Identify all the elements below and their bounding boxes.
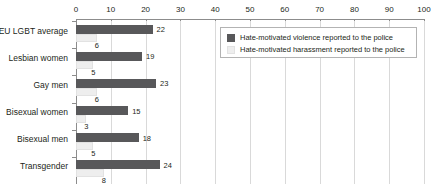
bar-violence [76,106,128,115]
category-tick [72,157,76,158]
category-tick [72,75,76,76]
bar-violence [76,52,142,61]
x-tick-label: 80 [350,5,359,15]
legend-item-violence: Hate-motivated violence reported to the … [227,33,393,42]
bar-violence [76,79,156,88]
x-tick-label: 90 [385,5,394,15]
bar-value-harassment: 8 [102,176,106,185]
x-tick-label: 100 [417,5,430,15]
chart-legend: Hate-motivated violence reported to the … [220,27,417,58]
harassment-swatch-icon [227,46,235,54]
x-tick-label: 20 [141,5,150,15]
bar-value-violence: 19 [146,52,154,61]
bar-value-violence: 18 [143,134,151,143]
legend-label-violence: Hate-motivated violence reported to the … [240,33,393,42]
x-tick-label: 70 [315,5,324,15]
category-row: Gay men236 [76,75,424,102]
bar-value-violence: 15 [132,107,140,116]
bar-value-violence: 24 [164,161,172,170]
x-tick-label: 50 [246,5,255,15]
category-row: Transgender248 [76,157,424,184]
category-tick [72,48,76,49]
bar-violence [76,25,153,34]
x-tick-label: 0 [74,5,78,15]
category-label: Bisexual women [6,107,68,117]
legend-item-harassment: Hate-motivated harassment reported to th… [227,45,405,54]
bar-violence [76,160,160,169]
category-tick [72,103,76,104]
x-tick-label: 30 [176,5,185,15]
category-row: Bisexual men185 [76,130,424,157]
category-row: Bisexual women153 [76,103,424,130]
category-tick [72,130,76,131]
bar-harassment [76,34,97,42]
category-label: Gay men [34,80,69,90]
category-label: Bisexual men [17,134,68,144]
x-tick-label: 60 [280,5,289,15]
category-label: Lesbian women [8,53,68,63]
category-label: Transgender [20,161,68,171]
bar-harassment [76,88,97,96]
violence-swatch-icon [227,34,235,42]
bar-violence [76,133,139,142]
bar-harassment [76,169,104,177]
legend-label-harassment: Hate-motivated harassment reported to th… [240,45,405,54]
bar-value-violence: 22 [157,25,165,34]
x-tick-label: 40 [211,5,220,15]
category-tick [72,21,76,22]
gridline [424,21,425,184]
category-label: EU LGBT average [0,26,68,36]
x-tick-label: 10 [106,5,115,15]
bar-value-violence: 23 [160,79,168,88]
